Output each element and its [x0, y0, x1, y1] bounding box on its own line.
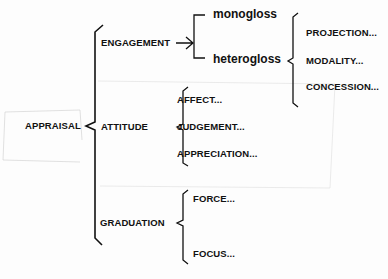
attitude-label: ATTITUDE — [101, 121, 148, 132]
diagram-lines — [0, 0, 388, 279]
projection-option: PROJECTION... — [306, 27, 377, 38]
engagement-arrow — [176, 37, 193, 49]
heterogloss-option: heterogloss — [213, 52, 281, 66]
engagement-label: ENGAGEMENT — [101, 37, 170, 48]
engagement-bracket — [194, 15, 205, 58]
monogloss-option: monogloss — [213, 7, 277, 21]
appraisal-label: APPRAISAL — [25, 120, 81, 131]
appraisal-brace — [86, 25, 103, 245]
force-option: FORCE... — [193, 193, 235, 204]
appreciation-option: APPRECIATION... — [177, 148, 258, 159]
heterogloss-brace — [288, 13, 298, 107]
concession-option: CONCESSION... — [306, 81, 379, 92]
affect-option: AFFECT... — [177, 94, 222, 105]
modality-option: MODALITY... — [306, 55, 364, 66]
judgement-option: JUDGEMENT... — [177, 121, 245, 132]
focus-option: FOCUS... — [193, 248, 235, 259]
graduation-label: GRADUATION — [100, 217, 165, 228]
graduation-brace — [177, 190, 188, 264]
